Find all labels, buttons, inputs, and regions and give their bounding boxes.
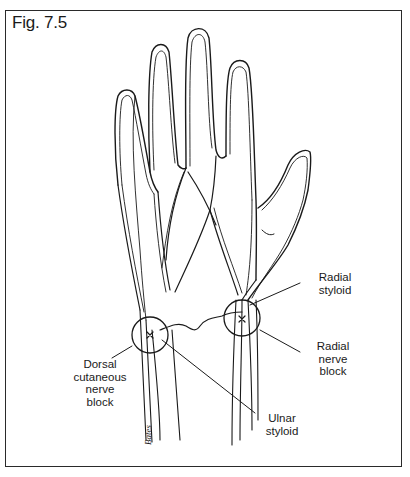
middle-finger <box>186 29 227 168</box>
label-line: Radial <box>298 340 368 353</box>
forearm <box>140 300 258 445</box>
label-line: block <box>298 365 368 378</box>
wrist-crease <box>160 312 242 330</box>
label-line: Radial <box>300 271 370 284</box>
label-line: nerve <box>298 353 368 366</box>
little-finger <box>115 90 158 194</box>
label-ulnar-styloid: Ulnar styloid <box>252 412 312 437</box>
label-line: block <box>65 396 135 409</box>
label-line: Ulnar <box>252 412 312 425</box>
hand-illustration: Bates <box>0 0 410 477</box>
label-line: Dorsal <box>65 358 135 371</box>
label-line: styloid <box>300 284 370 297</box>
label-radial-nerve-block: Radial nerve block <box>298 340 368 378</box>
injection-x-markers <box>147 316 245 338</box>
label-dorsal-cutaneous-nerve-block: Dorsal cutaneous nerve block <box>65 358 135 408</box>
ring-finger <box>149 45 186 173</box>
label-line: styloid <box>252 425 312 438</box>
label-line: cutaneous <box>65 371 135 384</box>
index-finger <box>226 61 256 281</box>
tendon-network <box>118 96 256 320</box>
label-line: nerve <box>65 383 135 396</box>
leader-lines <box>112 283 300 413</box>
label-radial-styloid: Radial styloid <box>300 271 370 296</box>
artist-signature: Bates <box>143 425 153 445</box>
